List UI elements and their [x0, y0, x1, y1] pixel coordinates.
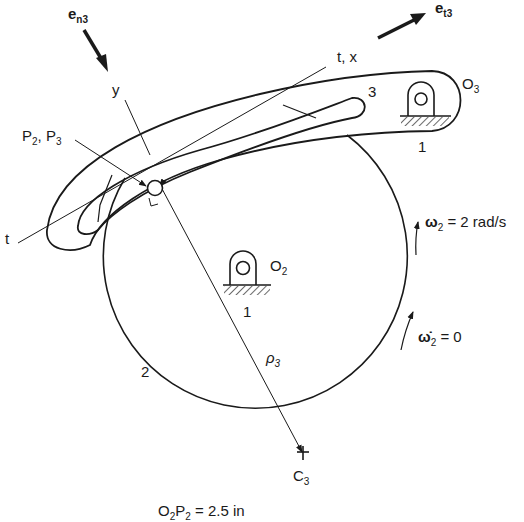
- label-t-x-axis: t, x: [337, 49, 357, 64]
- label-C3: C3: [293, 468, 309, 487]
- label-link-3: 3: [368, 84, 376, 99]
- y-axis-line: [125, 100, 150, 155]
- label-link-2: 2: [141, 364, 149, 379]
- rho3-line: [160, 185, 302, 452]
- e-t3-arrow-icon: [378, 13, 426, 38]
- label-ground-O3: 1: [418, 139, 426, 154]
- label-rho3: ρ3: [266, 350, 280, 369]
- link-3-arm: [47, 71, 461, 250]
- label-e-n3: en3: [68, 6, 88, 25]
- label-e-t3: et3: [435, 0, 452, 19]
- t-x-axis-line: [18, 67, 326, 243]
- pivot-O2-icon: [223, 251, 271, 295]
- label-omega2: ω2 = 2 rad/s: [425, 214, 506, 233]
- omega2-arrow-icon: [416, 222, 418, 255]
- label-P2-P3: P2, P3: [22, 128, 62, 147]
- e-n3-arrow-icon: [84, 30, 108, 72]
- label-O2: O2: [270, 258, 287, 277]
- label-O3: O3: [462, 76, 479, 95]
- center-C3-mark: [297, 446, 309, 460]
- label-omega2-dot: ω̇2 = 0: [418, 329, 462, 348]
- label-y-axis: y: [112, 82, 120, 97]
- pivot-O3-icon: [400, 82, 451, 126]
- caption-O2P2: O2P2 = 2.5 in: [158, 503, 245, 522]
- label-t-axis: t: [5, 231, 9, 246]
- label-ground-O2: 1: [243, 304, 251, 319]
- pin-P2-P3: [148, 181, 163, 196]
- omega2dot-arrow-icon: [401, 312, 413, 350]
